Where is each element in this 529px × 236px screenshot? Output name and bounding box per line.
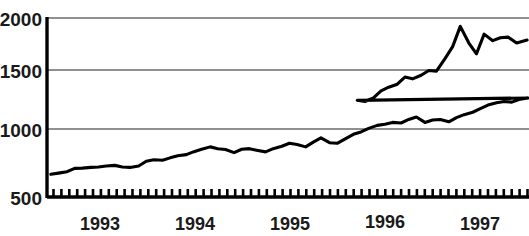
y-tick-label-1500: 1500 xyxy=(0,61,42,82)
x-tick-label-1994: 1994 xyxy=(175,214,215,234)
line-chart: 2000 1500 1000 500 1993 1994 1995 1996 1… xyxy=(0,0,529,236)
x-tick-label-1997: 1997 xyxy=(460,214,500,234)
chart-figure: 2000 1500 1000 500 1993 1994 1995 1996 1… xyxy=(0,0,529,236)
x-tick-label-1993: 1993 xyxy=(80,214,120,234)
x-axis-minor-ticks xyxy=(54,189,528,197)
y-tick-label-2000: 2000 xyxy=(0,9,42,30)
x-tick-label-1995: 1995 xyxy=(270,214,310,234)
y-tick-label-1000: 1000 xyxy=(0,120,42,141)
y-tick-label-500: 500 xyxy=(10,188,42,209)
chart-background xyxy=(0,0,529,236)
x-tick-label-1996: 1996 xyxy=(365,212,405,232)
